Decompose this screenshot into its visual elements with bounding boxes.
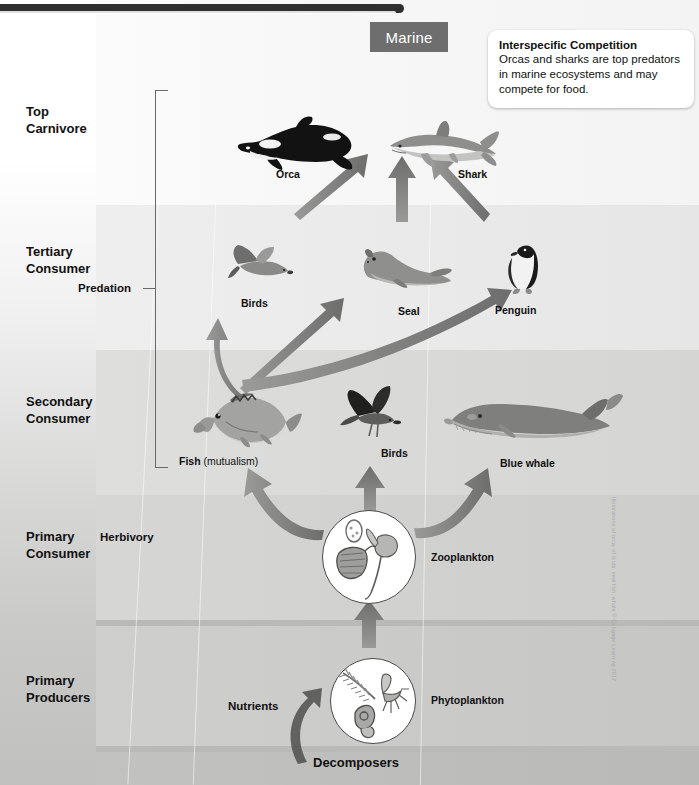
label-phytoplankton: Phytoplankton: [431, 694, 504, 706]
label-zooplankton: Zooplankton: [431, 551, 494, 563]
label-fish: Fish (mutualism): [179, 455, 258, 467]
penguin-illustration: [501, 238, 545, 294]
shark-illustration: [384, 116, 500, 168]
label-fish-qualifier: (mutualism): [201, 455, 259, 467]
zooplankton-art: [323, 511, 416, 604]
label-birds-secondary: Birds: [381, 447, 408, 459]
birds-secondary-illustration: [336, 380, 408, 440]
seal-illustration: [352, 243, 454, 289]
label-seal: Seal: [398, 305, 420, 317]
blue-whale-illustration: [442, 382, 624, 452]
illustration-credit: Illustrations of orca, of birds, seal fi…: [611, 497, 617, 681]
arrow-fish-to-penguin: [242, 288, 512, 392]
arrow-zooplankton-to-birds-secondary: [355, 466, 385, 512]
arrow-zooplankton-to-fish: [244, 468, 324, 540]
arrow-phytoplankton-to-zooplankton: [354, 600, 384, 648]
arrow-nutrients-to-phytoplankton: [291, 688, 322, 764]
fish-illustration: [192, 388, 302, 450]
label-orca: Orca: [276, 168, 300, 180]
phytoplankton-circle: [330, 658, 416, 744]
zooplankton-circle: [322, 510, 416, 604]
arrow-zooplankton-to-blue-whale: [414, 468, 492, 538]
label-birds-tertiary: Birds: [241, 297, 268, 309]
label-penguin: Penguin: [495, 304, 536, 316]
label-shark: Shark: [458, 168, 487, 180]
orca-illustration: [234, 115, 356, 171]
birds-tertiary-illustration: [226, 240, 294, 284]
diagram-canvas: Marine Interspecific Competition Orcas a…: [0, 0, 699, 785]
phytoplankton-art: [331, 659, 416, 744]
label-fish-bold: Fish: [179, 455, 201, 467]
label-blue-whale: Blue whale: [500, 457, 555, 469]
